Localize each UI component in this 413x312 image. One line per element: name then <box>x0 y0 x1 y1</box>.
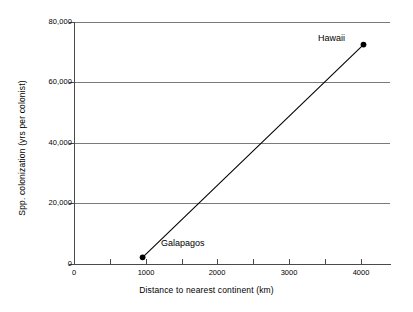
data-point-label-galapagos: Galapagos <box>161 238 205 248</box>
data-series-layer <box>0 0 413 312</box>
data-point-galapagos <box>140 254 146 260</box>
data-point-hawaii <box>361 42 367 48</box>
y-axis-title: Spp. colonization (yrs per colonist) <box>17 48 27 248</box>
series-line-island-colonization <box>143 45 364 258</box>
data-point-label-hawaii: Hawaii <box>318 33 345 43</box>
x-axis-title: Distance to nearest continent (km) <box>0 285 413 295</box>
chart-figure: 80,000 60,000 40,000 20,000 0 0 1000 200… <box>0 0 413 312</box>
